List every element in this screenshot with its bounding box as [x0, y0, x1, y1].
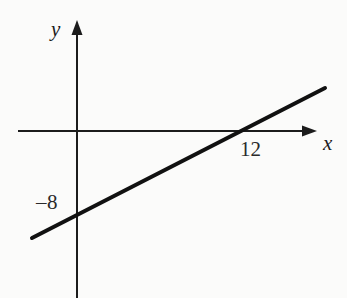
x-axis [18, 126, 317, 137]
y-axis [72, 20, 83, 298]
y-axis-label: y [51, 19, 60, 40]
coordinate-plane [0, 0, 347, 298]
y-axis-arrowhead-icon [72, 20, 83, 35]
x-axis-label: x [323, 133, 332, 154]
x-intercept-label: 12 [240, 139, 261, 160]
y-intercept-label: –8 [36, 192, 58, 213]
line-series [32, 88, 325, 238]
x-axis-arrowhead-icon [302, 126, 317, 137]
graph-figure: y x 12 –8 [0, 0, 347, 298]
